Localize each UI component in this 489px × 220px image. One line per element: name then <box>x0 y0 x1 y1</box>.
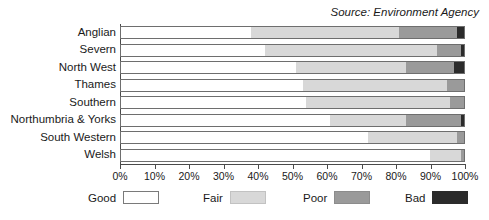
category-label: Anglian <box>0 27 116 39</box>
x-tick-label: 60% <box>316 170 337 182</box>
bar-segment-bad <box>454 62 464 73</box>
x-tick-label: 10% <box>144 170 165 182</box>
bar-row <box>120 44 465 57</box>
bar-segment-poor <box>461 150 464 161</box>
x-tick-label: 80% <box>385 170 406 182</box>
legend-item-bad: Bad <box>405 191 468 204</box>
bar-segment-fair <box>306 97 450 108</box>
bar-segment-good <box>121 45 265 56</box>
source-annotation: Source: Environment Agency <box>330 6 479 18</box>
bar-segment-poor <box>457 132 464 143</box>
bar-segment-fair <box>303 80 447 91</box>
category-label: North West <box>0 62 116 74</box>
legend-item-good: Good <box>88 191 159 204</box>
bar-segment-good <box>121 115 330 126</box>
legend-label: Poor <box>303 192 327 204</box>
bar-segment-fair <box>430 150 461 161</box>
category-label: Thames <box>0 79 116 91</box>
bar-row <box>120 79 465 92</box>
bar-segment-good <box>121 150 430 161</box>
x-tick-label: 90% <box>420 170 441 182</box>
legend-label: Bad <box>405 192 425 204</box>
bar-segment-fair <box>330 115 405 126</box>
legend-label: Fair <box>203 192 223 204</box>
x-tick-mark <box>155 164 156 169</box>
x-tick-label: 70% <box>351 170 372 182</box>
legend-label: Good <box>88 192 116 204</box>
bar-segment-good <box>121 97 306 108</box>
x-tick-mark <box>293 164 294 169</box>
x-tick-mark <box>224 164 225 169</box>
legend-swatch-bad <box>432 191 468 204</box>
x-tick-label: 100% <box>452 170 479 182</box>
legend-swatch-fair <box>230 191 266 204</box>
bar-segment-poor <box>406 62 454 73</box>
category-label: Northumbria & Yorks <box>0 114 116 126</box>
category-label: Severn <box>0 44 116 56</box>
category-label: Southern <box>0 97 116 109</box>
category-label: South Western <box>0 132 116 144</box>
x-tick-label: 30% <box>213 170 234 182</box>
x-tick-mark <box>465 164 466 169</box>
x-tick-label: 0% <box>112 170 127 182</box>
bar-row <box>120 61 465 74</box>
legend-item-fair: Fair <box>203 191 266 204</box>
bar-segment-fair <box>368 132 457 143</box>
category-axis-labels: AnglianSevernNorth WestThamesSouthernNor… <box>0 24 116 164</box>
legend-swatch-poor <box>334 191 370 204</box>
chart-legend: GoodFairPoorBad <box>0 191 489 211</box>
stacked-bar-chart: Source: Environment Agency AnglianSevern… <box>0 0 489 220</box>
x-tick-label: 40% <box>247 170 268 182</box>
bar-segment-good <box>121 80 303 91</box>
legend-swatch-good <box>123 191 159 204</box>
x-tick-label: 20% <box>178 170 199 182</box>
bar-row <box>120 96 465 109</box>
bar-segment-poor <box>406 115 461 126</box>
category-label: Welsh <box>0 149 116 161</box>
bar-segment-bad <box>461 45 464 56</box>
bar-segment-good <box>121 132 368 143</box>
bar-row <box>120 149 465 162</box>
x-tick-mark <box>258 164 259 169</box>
bar-row <box>120 131 465 144</box>
bar-row <box>120 114 465 127</box>
bar-segment-fair <box>265 45 437 56</box>
bar-segment-poor <box>450 97 464 108</box>
bar-segment-good <box>121 62 296 73</box>
x-tick-mark <box>327 164 328 169</box>
bar-row <box>120 26 465 39</box>
x-tick-mark <box>189 164 190 169</box>
bar-segment-poor <box>447 80 464 91</box>
bar-segment-poor <box>399 27 457 38</box>
bar-segment-fair <box>251 27 398 38</box>
plot-area <box>120 24 465 164</box>
bar-segment-bad <box>457 27 464 38</box>
bar-segment-fair <box>296 62 406 73</box>
x-tick-mark <box>362 164 363 169</box>
x-tick-mark <box>431 164 432 169</box>
bar-segment-good <box>121 27 251 38</box>
bar-segment-poor <box>437 45 461 56</box>
legend-item-poor: Poor <box>303 191 370 204</box>
x-tick-mark <box>120 164 121 169</box>
x-tick-label: 50% <box>282 170 303 182</box>
bar-segment-bad <box>461 115 464 126</box>
x-tick-mark <box>396 164 397 169</box>
